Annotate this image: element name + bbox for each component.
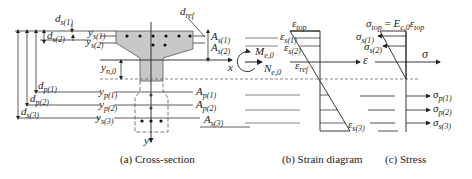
strain-axis-label: ε xyxy=(363,53,368,67)
label-eps-ref: εref xyxy=(295,59,310,74)
label-sigma-p1: σp(1) xyxy=(433,88,452,103)
label-sigma-p2: σp(2) xyxy=(433,102,452,117)
label-Ne0: Ne,0 xyxy=(263,62,281,77)
y-axis-label: y xyxy=(143,134,149,146)
t-beam-concrete-section xyxy=(116,31,193,81)
label-ds1: ds(1) xyxy=(55,12,73,27)
label-dref: dref xyxy=(180,5,196,20)
cross-section-strain-stress-diagram: y x xyxy=(0,0,472,179)
label-ys3: ys(3) xyxy=(95,111,114,126)
label-Me0: Me,0 xyxy=(254,45,274,60)
stress-axis-label: σ xyxy=(422,47,429,61)
stress-triangle xyxy=(380,31,406,79)
rebar-bottom-row xyxy=(140,119,162,122)
label-As3: As(3) xyxy=(203,113,224,128)
strain-panel: ε εtop εs(1) εs(2) εref εs(3) xyxy=(280,17,368,133)
caption-cross-section: (a) Cross-section xyxy=(120,153,195,166)
stress-panel: σ σtop = Ec,0εtop σs(1) σs(2) σp(1) σp(2… xyxy=(356,17,452,132)
caption-strain-diagram: (b) Strain diagram xyxy=(282,153,363,166)
stress-top-equation: σtop = Ec,0εtop xyxy=(366,17,424,32)
label-yn0: yn,0 xyxy=(100,61,116,76)
x-axis-label: x xyxy=(227,61,233,73)
label-eps-s3: εs(3) xyxy=(348,118,365,133)
label-eps-top: εtop xyxy=(292,17,307,32)
label-sigma-s3: σs(3) xyxy=(433,116,451,131)
label-Ap2: Ap(2) xyxy=(195,98,216,113)
label-yp2: yp(2) xyxy=(98,98,118,113)
label-eps-s1: εs(1) xyxy=(280,30,297,45)
caption-stress: (c) Stress xyxy=(385,153,426,166)
